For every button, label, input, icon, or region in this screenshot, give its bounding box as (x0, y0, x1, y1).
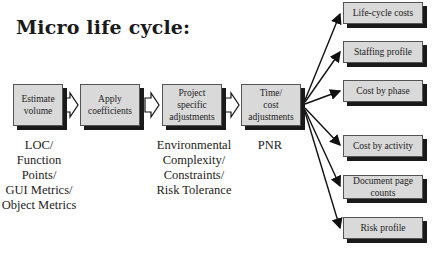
output-cost-by-phase: Cost by phase (343, 80, 423, 102)
flow-arrows (0, 0, 436, 253)
stage-project-specific-adjustments: Projectspecificadjustments (162, 84, 222, 126)
output-document-page-counts: Document pagecounts (343, 175, 423, 199)
input-label-pnr: PNR (248, 138, 292, 153)
output-risk-profile: Risk profile (343, 217, 423, 239)
input-label-adjustment-factors: Environmental Complexity/ Constraints/ R… (148, 138, 240, 198)
output-life-cycle-costs: Life-cycle costs (343, 2, 423, 24)
stage-time-cost-adjustments: Time/costadjustments (241, 84, 301, 126)
stage-apply-coefficients: Applycoefficients (80, 84, 140, 126)
stage-estimate-volume: Estimatevolume (13, 84, 63, 126)
output-cost-by-activity: Cost by activity (343, 135, 423, 157)
output-staffing-profile: Staffing profile (343, 41, 423, 63)
input-label-volume-metrics: LOC/ Function Points/ GUI Metrics/ Objec… (0, 138, 78, 213)
